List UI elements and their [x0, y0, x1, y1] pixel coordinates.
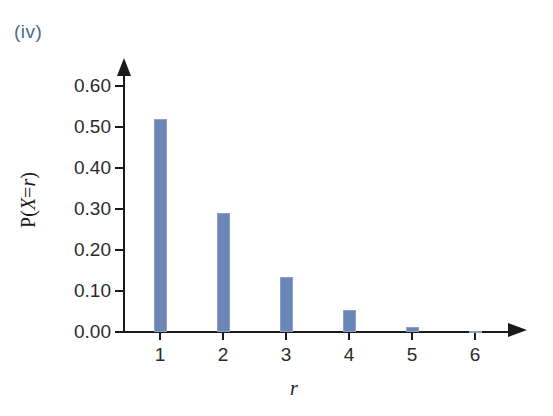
y-axis-tick-label: 0.30	[45, 199, 111, 218]
y-axis-title-equals: =	[17, 187, 39, 198]
x-axis-tick	[411, 331, 413, 340]
x-axis-tick-label: 6	[455, 345, 495, 364]
y-axis-title: P(X=r)	[18, 140, 38, 260]
bar	[217, 213, 230, 332]
x-axis-tick-label: 3	[266, 345, 306, 364]
y-axis-tick-label: 0.10	[45, 281, 111, 300]
y-axis-title-suffix: )	[17, 172, 39, 179]
y-axis-tick-label: 0.20	[45, 240, 111, 259]
y-axis-tick-label: 0.60	[45, 76, 111, 95]
y-axis-tick	[115, 167, 124, 169]
y-axis-title-variable2: r	[17, 179, 39, 187]
x-axis-tick	[285, 331, 287, 340]
y-axis-title-prefix: P(	[17, 210, 39, 228]
x-axis-tick	[159, 331, 161, 340]
bar	[343, 310, 356, 332]
x-axis-tick	[222, 331, 224, 340]
y-axis-tick	[115, 249, 124, 251]
bar	[469, 331, 482, 333]
y-axis-tick	[115, 331, 124, 333]
y-axis-arrowhead	[117, 58, 131, 76]
x-axis-tick	[348, 331, 350, 340]
y-axis-line	[123, 72, 125, 333]
x-axis-tick-label: 1	[140, 345, 180, 364]
x-axis-tick-label: 4	[329, 345, 369, 364]
bar-chart-plot: 0.600.500.400.300.200.100.00 123456 P(X=…	[0, 0, 553, 416]
figure-container: (iv) 0.600.500.400.300.200.100.00 123456…	[0, 0, 553, 416]
x-axis-title: r	[290, 378, 298, 398]
y-axis-tick-label: 0.50	[45, 117, 111, 136]
bar	[280, 277, 293, 332]
bar	[406, 327, 419, 332]
x-axis-line	[123, 331, 513, 333]
y-axis-tick	[115, 290, 124, 292]
y-axis-tick	[115, 85, 124, 87]
y-axis-tick	[115, 126, 124, 128]
x-axis-arrowhead	[508, 323, 527, 337]
y-axis-tick-label: 0.40	[45, 158, 111, 177]
y-axis-title-variable: X	[17, 198, 39, 210]
y-axis-tick-label: 0.00	[45, 322, 111, 341]
x-axis-tick-label: 2	[203, 345, 243, 364]
bar	[154, 119, 167, 332]
y-axis-tick	[115, 208, 124, 210]
x-axis-tick-label: 5	[392, 345, 432, 364]
